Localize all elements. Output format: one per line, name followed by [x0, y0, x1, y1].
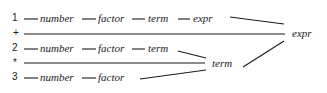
node-term: term [148, 13, 168, 24]
node-number: number [40, 72, 74, 83]
row-label-plus: + [13, 28, 19, 38]
node-factor: factor [98, 13, 124, 24]
row-label-star: * [13, 58, 17, 68]
node-number: number [40, 13, 74, 24]
node-number: number [40, 43, 74, 54]
row-label-3: 3 [12, 72, 18, 82]
row-label-2: 2 [12, 43, 18, 53]
node-expr: expr [193, 13, 213, 24]
node-factor: factor [98, 72, 124, 83]
merge-node-term: term [212, 58, 232, 69]
node-term: term [148, 43, 168, 54]
node-factor: factor [98, 43, 124, 54]
merge-node-expr: expr [292, 28, 312, 39]
row-label-1: 1 [12, 13, 18, 23]
parse-tree-diagram: 1 number factor term expr + 2 number fac… [0, 0, 327, 93]
